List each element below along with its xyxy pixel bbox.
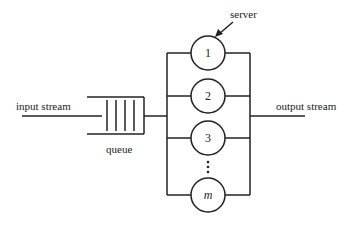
server-label: server	[230, 8, 257, 20]
ellipsis-dots	[207, 161, 210, 174]
server-arrow-head	[215, 29, 223, 37]
server-3-label: 3	[205, 131, 211, 145]
server-1-label: 1	[205, 46, 211, 60]
queue-label: queue	[106, 143, 132, 155]
input-stream-label: input stream	[16, 100, 71, 112]
server-2-label: 2	[205, 89, 211, 103]
server-m-label: m	[204, 188, 213, 202]
queueing-diagram: input stream queue server output stream …	[0, 0, 348, 226]
output-stream-label: output stream	[276, 100, 337, 112]
